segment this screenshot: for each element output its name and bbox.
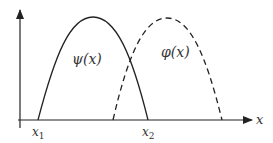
- x-axis-label: x: [256, 112, 264, 127]
- x2-tick-label: x2: [142, 125, 155, 141]
- diagram-canvas: ψ(x) φ(x) x x1 x2: [0, 0, 273, 143]
- phi-curve: [113, 18, 222, 120]
- phi-label: φ(x): [161, 44, 190, 60]
- figure: ψ(x) φ(x) x x1 x2: [0, 0, 273, 143]
- psi-label: ψ(x): [72, 51, 102, 67]
- x1-tick-label: x1: [32, 125, 45, 141]
- psi-curve: [38, 17, 148, 120]
